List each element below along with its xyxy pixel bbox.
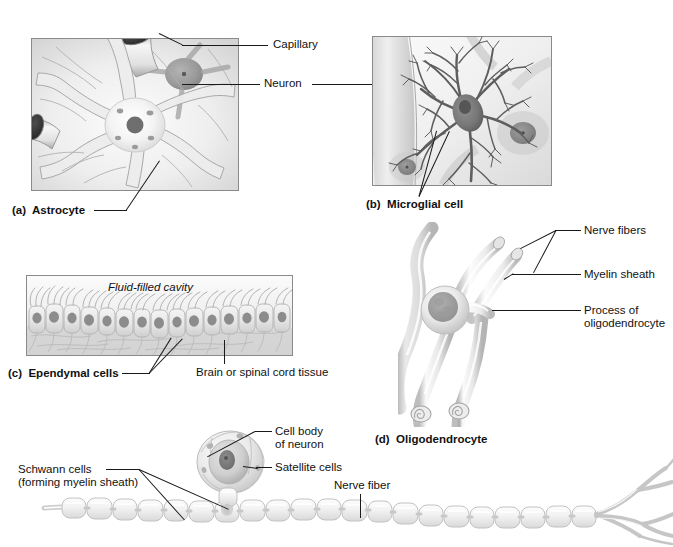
- figure-neuroglia: Capillary Neuron (a) Astrocyte: [0, 0, 673, 547]
- panel-microglia-image: [372, 36, 552, 186]
- caption-astrocyte: (a) Astrocyte: [12, 204, 85, 217]
- label-schwann-cells-line1: Schwann cells: [18, 463, 92, 476]
- leader-process-of-oligodendrocyte: [492, 310, 581, 311]
- label-brain-or-spinal-cord-tissue: Brain or spinal cord tissue: [196, 366, 328, 379]
- leader-neuron-left: [182, 84, 260, 85]
- leader-satellite-cells: [256, 467, 272, 468]
- label-capillary: Capillary: [273, 38, 318, 51]
- label-myelin-sheath: Myelin sheath: [584, 268, 655, 281]
- panel-astrocyte-image: [31, 38, 239, 191]
- leader-nerve-fibers-horizontal: [555, 230, 581, 231]
- leader-capillary-horizontal: [182, 45, 268, 46]
- label-fluid-filled-cavity: Fluid-filled cavity: [108, 281, 193, 294]
- leader-astrocyte-caption: [94, 210, 127, 211]
- leader-myelin-sheath: [512, 274, 581, 275]
- label-process-of-oligodendrocyte-line2: oligodendrocyte: [584, 317, 665, 330]
- caption-microglial-cell: (b) Microglial cell: [366, 198, 463, 211]
- label-cell-body-of-neuron-line2: of neuron: [275, 438, 324, 451]
- label-schwann-cells-line2: (forming myelin sheath): [18, 476, 138, 489]
- leader-brain-tissue-vertical: [224, 340, 225, 364]
- label-process-of-oligodendrocyte-line1: Process of: [584, 304, 638, 317]
- label-neuron: Neuron: [264, 77, 302, 90]
- leader-schwann-horizontal: [106, 469, 140, 470]
- label-cell-body-of-neuron-line1: Cell body: [275, 425, 323, 438]
- label-satellite-cells: Satellite cells: [275, 461, 342, 474]
- leader-cell-body-horizontal: [255, 431, 272, 432]
- label-nerve-fibers: Nerve fibers: [584, 224, 646, 237]
- panel-oligodendrocyte-image: [398, 222, 548, 427]
- label-nerve-fiber: Nerve fiber: [334, 479, 390, 492]
- leader-ependymal-caption: [122, 373, 150, 374]
- leader-nerve-fiber-vertical: [360, 494, 361, 518]
- caption-ependymal-cells: (c) Ependymal cells: [8, 367, 119, 380]
